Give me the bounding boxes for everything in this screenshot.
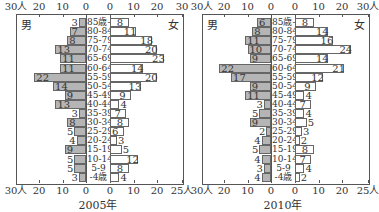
axis-top-female-label: 10 [127,2,140,12]
male-value: 9 [252,54,258,63]
male-bar [74,127,86,136]
axis-bottom-male-label: 0 [83,186,89,196]
female-value: 23 [152,54,165,63]
female-value: 11 [124,27,137,36]
axis-tick [63,14,64,17]
axis-tick [16,180,17,183]
axis-bottom-male-label: 10 [241,186,254,196]
axis-tick [134,14,135,17]
axis-top-male-label: 0 [83,2,89,12]
axis-bottom-male-label: 20 [33,186,46,196]
axis-tick [342,180,343,183]
year-label: 2010年 [264,196,303,212]
male-value: 3 [72,173,78,182]
axis-tick [39,180,40,183]
female-value: 12 [126,155,139,164]
male-bar [264,164,271,173]
female-bar [295,173,300,182]
male-bar [262,136,271,145]
male-bar [262,155,271,164]
axis-tick [134,180,135,183]
axis-bottom-female-label: 20 [151,186,164,196]
axis-tick [368,14,369,17]
female-bar [110,173,119,182]
male-label: 男 [21,16,32,32]
axis-tick [182,14,183,17]
axis-bottom-male-label: 0 [268,186,274,196]
axis-tick [319,180,320,183]
male-bar [262,173,271,182]
axis-top-female-label: 0 [107,2,113,12]
axis-tick [63,180,64,183]
axis-tick [368,180,369,183]
axis-bottom-female-label: 25人 [357,186,379,196]
axis-bottom-male-label: 30人 [191,186,214,196]
axis-top-female-label: 20 [151,2,164,12]
male-value: 14 [55,82,68,91]
male-bar [79,173,86,182]
axis-tick [157,180,158,183]
axis-bottom-female-label: 10 [127,186,140,196]
female-value: 4 [305,91,311,100]
female-value: 21 [332,64,345,73]
male-label: 男 [207,16,218,32]
axis-top-male-label: 0 [268,2,274,12]
male-bar [77,136,86,145]
male-bar [79,18,86,27]
male-value: 17 [233,73,246,82]
axis-bottom-male-label: 10 [56,186,69,196]
male-bar [266,127,271,136]
age-group-label: -4歳 [87,173,110,182]
axis-top-female-label: 30 [176,2,189,12]
pyramid-1: 30人201000102030人30人201000102025人男女685歳-8… [188,0,376,212]
axis-top-male-label: 10 [56,2,69,12]
female-value: 14 [131,64,144,73]
male-value: 13 [57,100,70,109]
female-value: 20 [145,73,158,82]
male-bar [264,100,271,109]
axis-tick [182,180,183,183]
male-value: 11 [62,64,75,73]
axis-tick [319,14,320,17]
axis-bottom-female-label: 10 [312,186,325,196]
pyramid-0: 30人20100010203030人201000102025人男女385歳-87… [0,0,188,212]
axis-top-male-label: 10 [241,2,254,12]
axis-bottom-female-label: 20 [336,186,349,196]
axis-tick [202,180,203,183]
axis-top-female-label: 20 [336,2,349,12]
female-value: 2 [301,173,307,182]
male-bar [79,109,86,118]
female-value: 16 [321,36,334,45]
axis-tick [224,14,225,17]
female-value: 4 [120,100,126,109]
axis-tick [248,180,249,183]
female-value: 4 [120,173,126,182]
axis-top-male-label: 20 [218,2,231,12]
male-bar [259,109,271,118]
female-label: 女 [168,16,179,32]
axis-top-female-label: 10 [312,2,325,12]
male-value: 22 [36,73,49,82]
axis-tick [157,14,158,17]
male-bar [259,145,271,154]
axis-bottom-female-label: 0 [292,186,298,196]
axis-tick [248,14,249,17]
female-value: 8 [302,18,308,27]
female-value: 12 [311,73,324,82]
male-value: 9 [252,118,258,127]
axis-tick [16,14,17,17]
male-value: 8 [69,36,75,45]
axis-top-male-label: 20 [33,2,46,12]
axis-top-female-label: 0 [292,2,298,12]
male-value: 4 [254,173,260,182]
age-group-label: -4歳 [272,173,295,182]
axis-top-male-label: 30人 [191,2,214,12]
axis-tick [224,180,225,183]
axis-bottom-female-label: 0 [107,186,113,196]
axis-tick [342,14,343,17]
female-value: 8 [117,18,123,27]
axis-bottom-male-label: 30人 [5,186,28,196]
axis-top-male-label: 30人 [5,2,28,12]
axis-top-female-label: 30人 [357,2,379,12]
female-value: 13 [129,82,142,91]
